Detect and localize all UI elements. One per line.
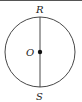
label-r: R xyxy=(35,4,44,15)
label-s: S xyxy=(36,91,43,102)
circle-diagram: R O S xyxy=(0,0,82,102)
center-point xyxy=(38,50,42,54)
label-o: O xyxy=(26,47,34,58)
